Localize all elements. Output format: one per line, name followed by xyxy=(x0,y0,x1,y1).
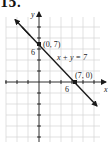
point-label-7-0: (7, 0) xyxy=(75,71,93,80)
equation-label: x + y = 7 xyxy=(56,53,88,62)
point-0-7 xyxy=(37,42,41,46)
x-tick-label: 6 xyxy=(65,85,69,94)
point-label-0-7: (0, 7) xyxy=(43,40,61,49)
y-axis-label: y xyxy=(30,10,35,19)
graph: y x 6 6 (0, 7) (7, 0) x + y = 7 xyxy=(0,0,112,142)
point-7-0 xyxy=(73,80,77,84)
y-tick-label: 6 xyxy=(31,48,35,57)
x-axis-label: x xyxy=(103,85,108,94)
equation-line xyxy=(22,27,97,106)
